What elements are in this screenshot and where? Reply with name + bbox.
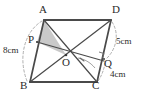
geometry-figure: A D B C O P Q 8cm 5cm 4cm (0, 0, 144, 98)
vertex-label-C: C (92, 80, 99, 91)
vertex-label-P: P (28, 34, 34, 45)
segment-PQ (37, 42, 104, 61)
vertex-label-Q: Q (104, 58, 112, 69)
dashed-arc-right-dq (106, 22, 116, 59)
measure-label-qc: 4cm (110, 70, 126, 79)
vertex-label-O: O (62, 57, 70, 68)
vertex-label-A: A (39, 4, 47, 15)
vertex-label-D: D (112, 4, 120, 15)
vertex-label-B: B (20, 80, 27, 91)
shaded-triangle-APO (37, 20, 66, 55)
measure-label-ab: 8cm (3, 46, 19, 55)
vertex-dot-P (36, 41, 38, 43)
measure-label-dq: 5cm (116, 37, 132, 46)
